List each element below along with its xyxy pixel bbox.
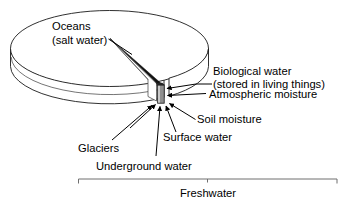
label-oceans-line1: Oceans [52,20,91,32]
leader-soil [170,104,196,120]
leader-glaciers-secondary [130,105,156,129]
leader-underground [156,107,160,157]
label-glaciers: Glaciers [78,142,119,154]
label-soil-moisture: Soil moisture [197,113,262,125]
label-oceans-line2: (salt water) [52,34,108,46]
label-underground-water: Underground water [96,160,192,172]
water-distribution-diagram: Oceans (salt water) Biological water (st… [0,0,346,203]
wedge-side-highlight [158,86,160,103]
diagram-canvas: Oceans (salt water) Biological water (st… [0,0,346,203]
wedge-block-top [156,83,164,85]
label-freshwater: Freshwater [180,187,236,199]
pie-disc-3d [11,11,209,104]
freshwater-bracket [79,179,338,184]
label-surface-water: Surface water [163,131,232,143]
label-atmospheric-moisture: Atmospheric moisture [209,88,317,100]
label-biological-line1: Biological water [213,65,292,77]
leader-surface [166,106,176,132]
leader-glaciers [112,106,152,141]
